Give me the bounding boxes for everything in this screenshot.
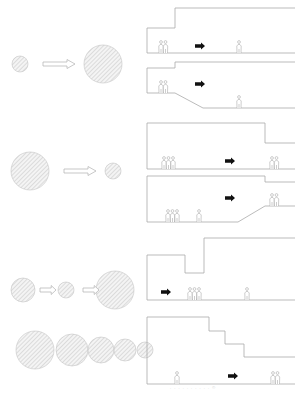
pedestrian-icon [188,288,192,300]
hatched-circle-icon [105,163,121,179]
hatched-circle-icon [114,339,136,361]
pedestrian-icon [171,157,175,169]
pedestrian-icon [170,210,174,222]
corridor-section-panel [147,123,295,169]
flow-direction-arrow-icon [225,194,235,201]
pedestrian-icon [274,194,278,206]
corridor-section-panel [147,62,295,108]
row-contraction-expansion [11,238,295,309]
pedestrian-icon [192,288,196,300]
flow-direction-arrow-icon [195,42,205,49]
corridor-flow-diagram [0,0,298,393]
pedestrian-icon [159,41,163,53]
pedestrian-icon [175,372,179,384]
corridor-section-panel [147,238,295,300]
pedestrian-icon [166,210,170,222]
pedestrian-icon [197,210,201,222]
hatched-circle-icon [11,278,35,302]
hatched-circle-icon [16,331,54,369]
hatched-circle-icon [96,271,134,309]
pedestrian-icon [274,157,278,169]
pedestrian-icon [162,157,166,169]
pedestrian-icon [271,372,275,384]
hollow-arrow-icon [43,60,75,69]
pedestrian-icon [163,81,167,93]
row-expansion [12,8,295,108]
floor-outline [147,93,295,108]
pedestrian-icon [197,288,201,300]
flow-direction-arrow-icon [225,157,235,164]
corridor-section-panel [147,8,295,53]
corridor-section-panel [147,176,295,222]
pedestrian-icon [159,81,163,93]
pedestrian-icon [237,96,241,108]
area-circles [12,45,122,83]
hollow-arrow-icon [40,286,56,295]
flow-direction-arrow-icon [195,80,205,87]
hatched-circle-icon [11,152,49,190]
area-circles [11,152,121,190]
flow-direction-arrow-icon [161,288,171,295]
pedestrian-icon [270,194,274,206]
area-circles [16,331,153,369]
hatched-circle-icon [56,334,88,366]
pedestrian-icon [175,210,179,222]
ceiling-outline [147,8,295,53]
corridor-section-panel [147,317,295,384]
diagram-canvas [0,0,298,393]
hatched-circle-icon [58,282,74,298]
pedestrian-icon [166,157,170,169]
pedestrian-icon [245,288,249,300]
area-circles [11,271,134,309]
hatched-circle-icon [137,342,153,358]
hollow-arrow-icon [64,167,96,176]
row-stepwise-contraction [16,317,295,384]
pedestrian-icon [270,157,274,169]
ceiling-outline [147,62,295,93]
hatched-circle-icon [84,45,122,83]
caption: . . . . . . . . . . © [170,385,216,390]
row-contraction [11,123,295,222]
hatched-circle-icon [88,337,114,363]
pedestrian-icon [237,41,241,53]
pedestrian-icon [163,41,167,53]
pedestrian-icon [275,372,279,384]
hatched-circle-icon [12,56,28,72]
flow-direction-arrow-icon [228,372,238,379]
